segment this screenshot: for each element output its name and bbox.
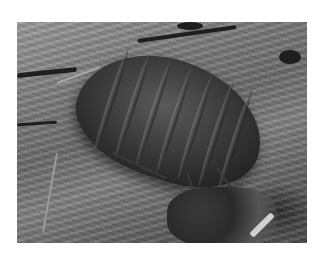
wood-knot <box>279 50 301 64</box>
soil-clump <box>167 187 277 243</box>
wood-knot <box>177 22 203 30</box>
woodlouse-photo <box>17 22 307 243</box>
